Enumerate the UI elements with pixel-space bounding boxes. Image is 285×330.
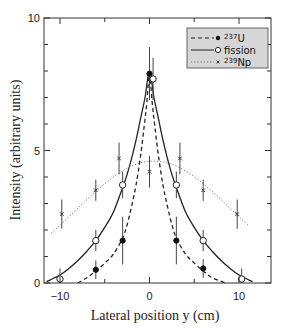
data-point-237u (120, 238, 125, 243)
data-point-237u (201, 266, 206, 271)
data-point-fission (150, 76, 156, 82)
legend-label-fission: fission (224, 45, 256, 56)
data-point-fission (119, 182, 125, 188)
intensity-profile-chart: −100100510 237Ufission239Np Lateral posi… (0, 0, 285, 330)
data-point-237u (147, 71, 152, 76)
data-point-237u (93, 267, 98, 272)
data-point-fission (93, 237, 99, 243)
data-point-fission (200, 237, 206, 243)
x-tick-label: 0 (146, 290, 152, 302)
y-tick-label: 10 (28, 12, 40, 24)
y-tick-label: 0 (34, 277, 40, 289)
x-tick-label: 10 (233, 290, 245, 302)
data-markers (57, 71, 245, 282)
curve-237u (78, 74, 226, 283)
legend: 237Ufission239Np (187, 28, 268, 68)
y-axis-title: Intensity (arbitrary units) (8, 79, 24, 220)
legend-marker (215, 47, 220, 52)
y-tick-label: 5 (34, 145, 40, 157)
x-tick-label: −10 (51, 290, 70, 302)
x-axis-title: Lateral position y (cm) (91, 308, 220, 324)
data-point-fission (173, 182, 179, 188)
legend-marker (216, 36, 220, 40)
data-point-237u (174, 238, 179, 243)
